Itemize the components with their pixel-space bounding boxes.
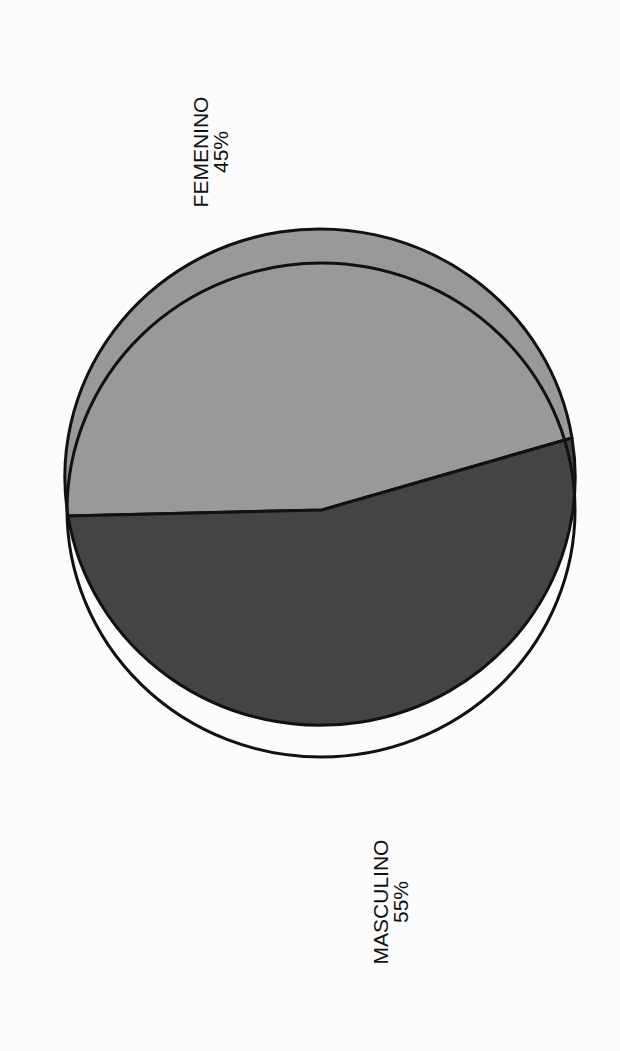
label-femenino: FEMENINO 45% (189, 97, 232, 208)
label-femenino-value: 45% (209, 131, 232, 173)
label-masculino-value: 55% (389, 881, 412, 923)
pie-chart: FEMENINO 45% MASCULINO 55% (0, 0, 620, 1051)
label-masculino: MASCULINO 55% (369, 840, 412, 965)
